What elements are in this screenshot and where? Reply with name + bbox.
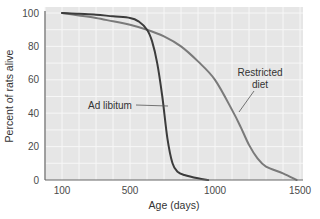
y-tick-label: 20 bbox=[28, 141, 40, 152]
y-tick-label: 80 bbox=[28, 41, 40, 52]
annotation-ad-libitum: Ad libitum bbox=[88, 100, 132, 111]
y-tick-label: 0 bbox=[33, 175, 39, 186]
annotation-restricted-line2: diet bbox=[252, 79, 268, 90]
y-tick-label: 100 bbox=[22, 8, 39, 19]
x-tick-label: 500 bbox=[122, 185, 139, 196]
y-tick-label: 60 bbox=[28, 74, 40, 85]
y-axis-title: Percent of rats alive bbox=[3, 49, 15, 142]
annotation-restricted-line1: Restricted bbox=[237, 67, 282, 78]
survival-chart: 02040608010010050010001500 Percent of ra… bbox=[0, 0, 320, 219]
y-tick-label: 40 bbox=[28, 108, 40, 119]
x-axis-title: Age (days) bbox=[149, 199, 200, 211]
x-tick-label: 1000 bbox=[204, 185, 227, 196]
x-tick-label: 1500 bbox=[289, 185, 312, 196]
plot-area bbox=[45, 7, 303, 180]
x-tick-label: 100 bbox=[54, 185, 71, 196]
